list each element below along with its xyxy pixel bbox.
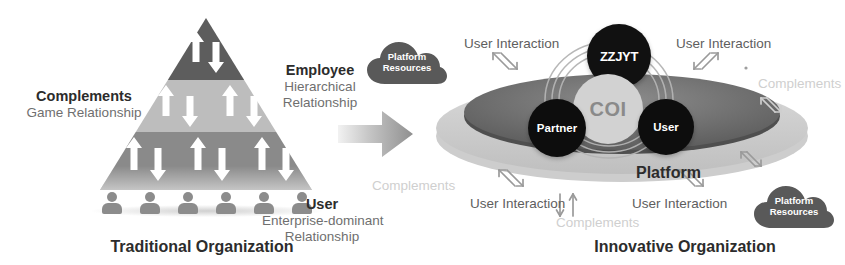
employee-line-1: Hierarchical <box>268 79 372 95</box>
person-icon <box>139 192 161 214</box>
complements-heading: Complements <box>14 88 154 105</box>
cloud-bottom-right-line-2: Resources <box>770 207 819 218</box>
traditional-organization-title: Traditional Organization <box>88 238 316 257</box>
employee-heading: Employee <box>268 62 372 79</box>
node-zzjyt-label: ZZJYT <box>600 49 638 64</box>
person-icon <box>101 192 123 214</box>
arrow-pair-top-right <box>694 53 718 69</box>
complements-label-left: Complements <box>372 178 455 194</box>
user-line-1: Enterprise-dominant <box>262 213 382 229</box>
person-icon <box>215 192 237 214</box>
user-interaction-label-top-left: User Interaction <box>464 36 559 52</box>
complements-label-bottom: Complements <box>556 215 639 231</box>
node-user-label: User <box>653 121 679 133</box>
employee-callout: Employee Hierarchical Relationship <box>268 62 372 111</box>
platform-label: Platform <box>636 164 701 183</box>
innovative-organization-title: Innovative Organization <box>570 238 800 257</box>
user-interaction-label-bottom-left: User Interaction <box>470 196 565 212</box>
node-coi-label: COI <box>589 98 626 121</box>
complements-label-right: Complements <box>758 76 841 92</box>
cloud-platform-resources-top-left[interactable]: Platform Resources <box>365 38 449 88</box>
stray-dot <box>744 66 747 69</box>
node-partner-label: Partner <box>537 122 577 134</box>
node-partner[interactable]: Partner <box>528 99 586 157</box>
node-user[interactable]: User <box>638 99 694 155</box>
complements-subtitle: Game Relationship <box>14 105 154 121</box>
complements-callout: Complements Game Relationship <box>14 88 154 121</box>
cloud-top-left-line-2: Resources <box>383 63 432 74</box>
diagram-canvas: Complements Game Relationship Employee H… <box>0 0 845 265</box>
person-icon <box>177 192 199 214</box>
user-interaction-label-top-right: User Interaction <box>676 36 771 52</box>
cloud-top-left-text: Platform Resources <box>383 52 432 73</box>
user-heading: User <box>262 196 382 213</box>
cloud-platform-resources-bottom-right[interactable]: Platform Resources <box>752 182 836 232</box>
cloud-bottom-right-text: Platform Resources <box>770 196 819 217</box>
user-interaction-label-bottom-right: User Interaction <box>632 196 727 212</box>
right-arrow-icon <box>338 108 414 160</box>
arrow-pair-top-left <box>493 53 517 69</box>
